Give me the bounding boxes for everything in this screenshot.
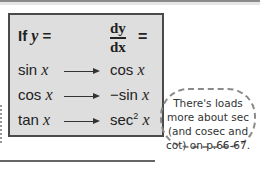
callout-note: There's loads more about sec (and cosec … [160, 96, 256, 152]
table-row: sin x [18, 61, 48, 79]
header-if-label: If [18, 27, 31, 44]
bottom-rule [0, 160, 155, 162]
derivative-var: x [143, 111, 150, 128]
function-name: sin [18, 61, 37, 78]
table-row: cos x [18, 86, 53, 104]
callout-line: There's loads [160, 96, 256, 110]
table-row-derivative: cos x [110, 61, 145, 79]
derivative-var: x [138, 61, 145, 78]
right-arrow-icon [64, 121, 98, 122]
function-var: x [41, 61, 48, 78]
fraction-denominator: dx [110, 40, 126, 55]
function-name: cos [18, 86, 41, 103]
derivative-name: −sin [110, 86, 138, 103]
function-name: tan [18, 111, 39, 128]
top-rule-shadow [0, 2, 260, 5]
function-var: x [43, 111, 50, 128]
header-left: If y = [18, 27, 51, 45]
header-right-equals: = [138, 28, 147, 46]
callout-line: (and cosec and [160, 124, 256, 138]
derivative-var: x [142, 86, 149, 103]
dy-dx-fraction: dy dx [110, 21, 126, 55]
header-equals: = [38, 27, 51, 44]
left-dotted-border [0, 105, 4, 143]
table-row: tan x [18, 111, 50, 129]
derivative-name: sec [110, 111, 133, 128]
table-row-derivative: sec2 x [110, 111, 150, 129]
callout-line: cot) on p.66-67. [160, 138, 256, 152]
function-var: x [46, 86, 53, 103]
callout-line: more about sec [160, 110, 256, 124]
right-arrow-icon [64, 71, 98, 72]
fraction-numerator: dy [110, 21, 126, 36]
table-row-derivative: −sin x [110, 86, 149, 104]
derivative-superscript: 2 [133, 111, 138, 121]
derivative-name: cos [110, 61, 133, 78]
right-arrow-icon [64, 96, 98, 97]
derivatives-table-panel: If y = dy dx = sin x cos x cos x −sin x … [8, 13, 164, 137]
